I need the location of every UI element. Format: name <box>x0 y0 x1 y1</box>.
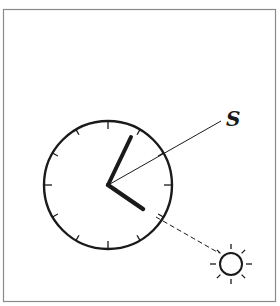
clock-icon <box>44 121 172 249</box>
south-label: S <box>226 107 240 131</box>
diagram-canvas: S <box>0 0 280 306</box>
sun-direction-line <box>156 217 219 253</box>
sun-icon <box>210 244 252 284</box>
hour-hand <box>108 185 143 209</box>
minute-hand <box>108 137 131 185</box>
south-line <box>110 121 221 184</box>
